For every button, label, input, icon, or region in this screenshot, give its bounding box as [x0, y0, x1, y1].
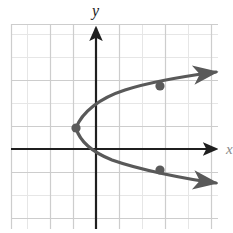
point-vertex [71, 123, 80, 132]
y-axis-label: y [92, 3, 99, 19]
graph-figure: y x [0, 0, 233, 233]
coordinate-plane [0, 0, 233, 233]
point-upper [155, 81, 164, 90]
point-lower [155, 165, 164, 174]
x-axis-label: x [226, 142, 233, 157]
grid-major-lines [12, 24, 219, 229]
axes [11, 28, 216, 229]
grid-lines [12, 24, 219, 229]
